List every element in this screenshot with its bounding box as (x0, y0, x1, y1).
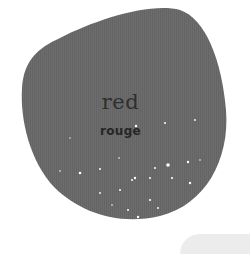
next-card-edge (180, 234, 250, 254)
word-english: red (0, 90, 241, 114)
word-french: rouge (0, 124, 241, 138)
